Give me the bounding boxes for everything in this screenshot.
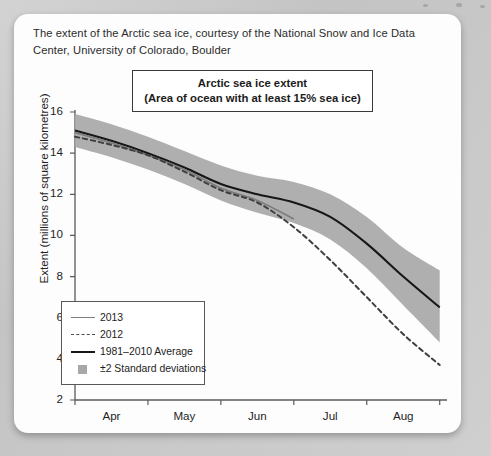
y-tick-label: 4 xyxy=(37,351,63,364)
legend-label: 1981–2010 Average xyxy=(100,346,193,357)
legend-item-std-dev: ±2 Standard deviations xyxy=(71,360,196,377)
y-tick-label: 2 xyxy=(37,392,63,405)
legend-swatch-dashed-line-icon xyxy=(71,329,97,341)
y-tick-label: 14 xyxy=(37,145,63,158)
page-speck xyxy=(423,4,428,7)
legend-label: 2013 xyxy=(100,312,123,323)
x-tick-marks xyxy=(75,400,440,405)
chart-title-line2: (Area of ocean with at least 15% sea ice… xyxy=(139,91,366,106)
legend-item-average: 1981–2010 Average xyxy=(71,343,196,360)
chart-title-line1: Arctic sea ice extent xyxy=(139,76,366,91)
legend-item-2013: 2013 xyxy=(71,309,196,326)
legend-item-2012: 2012 xyxy=(71,326,196,343)
y-tick-label: 6 xyxy=(37,310,63,323)
y-tick-label: 16 xyxy=(37,104,63,117)
x-tick-label: May xyxy=(159,409,209,422)
y-tick-label: 8 xyxy=(37,269,63,282)
x-tick-label: Jul xyxy=(305,409,355,422)
x-tick-label: Apr xyxy=(86,409,136,422)
x-tick-label: Aug xyxy=(378,409,428,422)
legend-swatch-square-icon xyxy=(71,363,97,375)
y-tick-label: 12 xyxy=(37,186,63,199)
legend-swatch-line-icon xyxy=(71,312,97,324)
y-tick-label: 10 xyxy=(37,227,63,240)
chart-card: The extent of the Arctic sea ice, courte… xyxy=(14,14,461,433)
legend-label: ±2 Standard deviations xyxy=(100,363,206,374)
page-speck xyxy=(456,3,462,7)
chart-legend: 2013 2012 1981–2010 Average ±2 Standard … xyxy=(61,301,205,385)
page-speck xyxy=(480,5,485,8)
chart-title-box: Arctic sea ice extent (Area of ocean wit… xyxy=(132,70,373,112)
legend-label: 2012 xyxy=(100,329,123,340)
x-tick-label: Jun xyxy=(232,409,282,422)
chart-plot-area: Arctic sea ice extent (Area of ocean wit… xyxy=(14,14,461,433)
legend-swatch-bold-line-icon xyxy=(71,346,97,358)
